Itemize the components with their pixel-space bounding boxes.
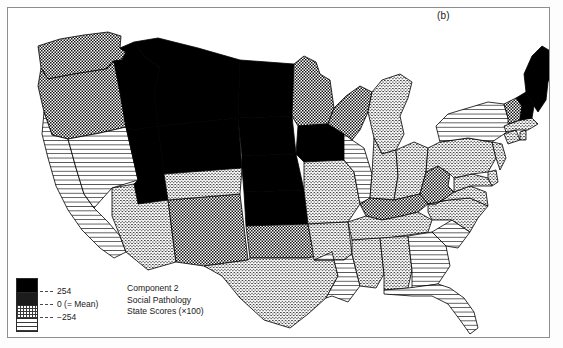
state-ND	[238, 60, 294, 118]
legend-break-label: 254	[57, 286, 71, 296]
state-AL	[380, 236, 412, 290]
state-NE	[242, 154, 304, 192]
state-CO	[164, 168, 242, 200]
state-MN	[292, 56, 334, 126]
figure-panel: (b)	[0, 0, 563, 348]
legend-break-label: −254	[57, 312, 76, 322]
legend-swatch-column	[16, 278, 38, 332]
legend-leader-line	[40, 291, 53, 292]
state-TX	[204, 252, 338, 328]
caption-line-theme: Social Pathology	[127, 295, 204, 307]
legend-leader-line	[40, 317, 53, 318]
figure-caption: Component 2 Social Pathology State Score…	[127, 283, 204, 318]
legend-break-label: 0 (= Mean)	[57, 299, 98, 309]
state-RI	[520, 130, 526, 140]
legend-swatch-below-mean	[17, 305, 37, 318]
state-NM	[168, 194, 248, 266]
legend-break-254: 254	[40, 286, 71, 296]
legend-swatch-above-mean	[17, 292, 37, 305]
state-KS	[244, 190, 308, 226]
caption-line-component: Component 2	[127, 283, 204, 295]
state-SD	[238, 116, 296, 156]
legend-break-neg254: −254	[40, 312, 76, 322]
legend-break-mean: 0 (= Mean)	[40, 299, 98, 309]
legend-swatch-high	[17, 279, 37, 292]
map-legend: 254 0 (= Mean) −254	[16, 278, 136, 336]
caption-line-units: State Scores (×100)	[127, 306, 204, 318]
state-WY	[158, 118, 242, 174]
legend-leader-line	[40, 304, 53, 305]
state-FL	[384, 284, 478, 334]
legend-swatch-low	[17, 318, 37, 331]
state-NY	[436, 102, 514, 142]
